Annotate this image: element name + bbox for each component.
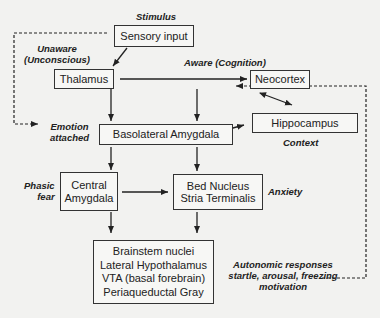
node-label-line1: Brainstem nuclei: [113, 245, 194, 259]
annotation-unaware-line1: Unaware: [24, 43, 90, 54]
node-label: Basolateral Amygdala: [113, 128, 219, 141]
node-hippocampus: Hippocampus: [252, 113, 358, 133]
arrow-sensory-to-thalamus: [113, 48, 127, 66]
node-label-line1: Central: [71, 179, 106, 192]
annotation-autonomic-line1: Autonomic responses: [222, 259, 344, 270]
annotation-emotion-line1: Emotion: [50, 121, 89, 132]
node-label-line1: Bed Nucleus: [187, 180, 249, 193]
node-label: Hippocampus: [271, 117, 338, 130]
annotation-anxiety: Anxiety: [268, 186, 302, 197]
node-outputs: Brainstem nuclei Lateral Hypothalamus VT…: [93, 240, 214, 304]
annotation-unaware: Unaware (Unconscious): [24, 43, 90, 65]
node-label-line4: Periaqueductal Gray: [103, 286, 203, 300]
node-neocortex: Neocortex: [250, 70, 310, 89]
node-bed-nucleus: Bed Nucleus Stria Terminalis: [173, 174, 263, 210]
node-label: Neocortex: [255, 73, 305, 86]
node-label: Sensory input: [120, 30, 187, 43]
annotation-autonomic-line2: startle, arousal, freezing: [222, 270, 344, 281]
annotation-unaware-line2: (Unconscious): [24, 54, 90, 65]
annotation-autonomic-line3: motivation: [222, 281, 344, 292]
node-label: Thalamus: [60, 73, 108, 86]
annotation-stimulus: Stimulus: [136, 11, 176, 22]
node-label-line2: Stria Terminalis: [181, 192, 256, 205]
annotation-phasic-line1: Phasic: [24, 180, 55, 191]
annotation-emotion-attached: Emotion attached: [50, 121, 89, 143]
node-label-line2: Amygdala: [65, 192, 114, 205]
node-label-line2: Lateral Hypothalamus: [100, 259, 207, 273]
node-basolateral-amygdala: Basolateral Amygdala: [99, 124, 233, 145]
annotation-phasic-line2: fear: [24, 191, 55, 202]
annotation-phasic-fear: Phasic fear: [24, 180, 55, 202]
node-sensory-input: Sensory input: [114, 25, 194, 47]
annotation-autonomic-responses: Autonomic responses startle, arousal, fr…: [222, 259, 344, 292]
node-central-amygdala: Central Amygdala: [60, 172, 118, 211]
annotation-context: Context: [283, 137, 318, 148]
annotation-aware: Aware (Cognition): [184, 57, 266, 68]
annotation-emotion-line2: attached: [50, 132, 89, 143]
node-label-line3: VTA (basal forebrain): [102, 272, 205, 286]
node-thalamus: Thalamus: [54, 69, 114, 89]
arrow-neocortex-hippocampus: [260, 93, 292, 105]
